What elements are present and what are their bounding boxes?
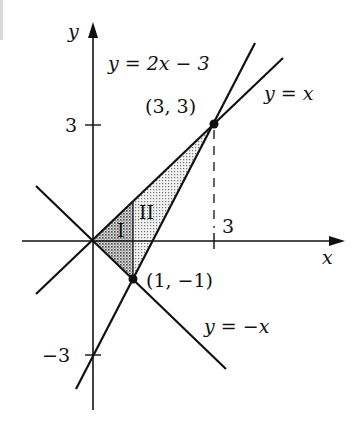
y-tick-label-3: 3 <box>65 114 77 136</box>
label-line-y-equals-x: y = x <box>263 82 314 104</box>
point-3-3 <box>210 120 219 129</box>
x-tick-label-3: 3 <box>222 215 234 237</box>
point-1-neg1 <box>129 275 138 284</box>
label-point-3-3: (3, 3) <box>145 95 196 117</box>
y-tick-label-neg3: −3 <box>42 344 70 366</box>
region-diagram: y x 3 −3 3 y = 2x − 3 y = x y = −x (3, 3… <box>0 0 363 429</box>
line-y-equals-x <box>36 58 283 294</box>
label-line-y-equals-neg-x: y = −x <box>203 315 270 337</box>
label-region-ii: II <box>139 201 154 223</box>
x-axis-label: x <box>322 246 333 268</box>
label-region-i: I <box>117 219 125 241</box>
label-point-1-neg1: (1, −1) <box>146 269 213 291</box>
y-axis-arrow-icon <box>88 22 98 38</box>
x-axis-arrow-icon <box>329 236 345 246</box>
label-line-2x-minus-3: y = 2x − 3 <box>107 52 210 74</box>
y-axis-label: y <box>67 20 79 42</box>
region-i <box>93 201 133 279</box>
